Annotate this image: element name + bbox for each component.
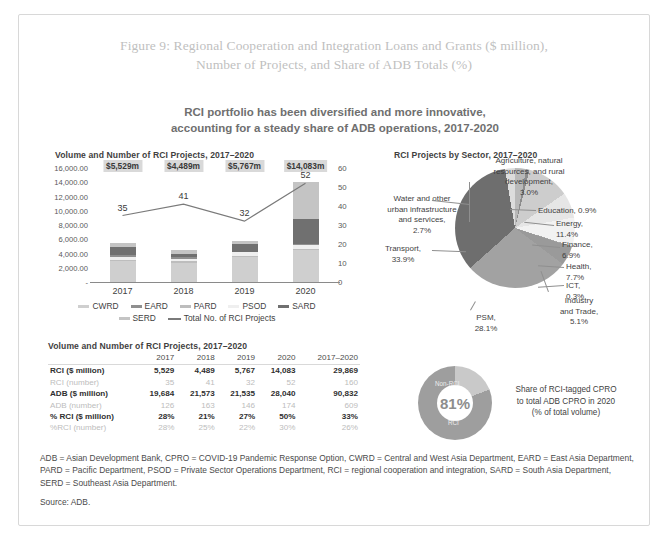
- table-cell: 5,767: [217, 365, 257, 377]
- legend-row-1: CWRDEARDPARDPSODSARD: [32, 300, 362, 312]
- donut-caption-line3: (% of total volume): [500, 407, 632, 419]
- legend-label: EARD: [145, 301, 168, 311]
- figure-title-line1: Figure 9: Regional Cooperation and Integ…: [40, 36, 628, 55]
- pie-label-line: and Trade,: [548, 307, 610, 318]
- donut-caption-line1: Share of RCI-tagged CPRO: [500, 384, 632, 396]
- legend-swatch: [228, 305, 239, 308]
- legend-item-total-no-of-rci-projects[interactable]: Total No. of RCI Projects: [168, 312, 276, 324]
- pie-label-line: 5.1%: [548, 317, 610, 328]
- table-cell: 14,083: [257, 365, 297, 377]
- table-column-header: 2019: [217, 352, 257, 365]
- pie-label-line: and services,: [376, 215, 468, 226]
- table-cell: 21,535: [217, 388, 257, 399]
- table-row-label: RCI (number): [48, 377, 136, 388]
- pie-label-line: ICT,: [566, 281, 634, 292]
- pie-slice-label-agriculture-natural-resource: Agriculture, naturalresources, and rural…: [470, 156, 588, 198]
- y-tick-label: 12,000.00: [54, 192, 88, 201]
- table-column-header: [48, 352, 136, 365]
- projects-count-label: 52: [300, 170, 310, 180]
- pie-label-line: 33.9%: [374, 255, 432, 266]
- table-cell: 19,684: [136, 388, 176, 399]
- figure-subtitle: RCI portfolio has been diversified and m…: [90, 104, 580, 136]
- y2-tick-label: 10: [338, 259, 347, 268]
- table-cell: 52: [257, 377, 297, 388]
- pie-label-line: 28.1%: [456, 324, 516, 335]
- table-row: %RCI (number)28%25%22%30%26%: [48, 422, 360, 433]
- total-projects-line: [92, 160, 336, 290]
- legend-swatch: [131, 305, 142, 308]
- table-cell: 22%: [217, 422, 257, 433]
- table-cell: 90,832: [298, 388, 361, 399]
- legend-item-serd[interactable]: SERD: [119, 312, 156, 324]
- pie-label-line: Education, 0.9%: [538, 206, 634, 217]
- pie-slice-label-education: Education, 0.9%: [538, 206, 634, 217]
- pie-slice-label-energy: Energy,11.4%: [556, 219, 634, 240]
- y-tick-label: 6,000.00: [58, 235, 88, 244]
- table-cell: 163: [176, 399, 216, 410]
- legend-label: SARD: [292, 301, 315, 311]
- table-cell: 28,040: [257, 388, 297, 399]
- pie-slice-label-water-and-other-urban-infras: Water and otherurban infrastructureand s…: [376, 194, 468, 236]
- legend-swatch: [168, 318, 181, 320]
- legend-item-sard[interactable]: SARD: [278, 300, 315, 312]
- pie-label-line: 6.9%: [562, 251, 634, 262]
- table-row: ADB (number)126163146174609: [48, 399, 360, 410]
- legend-item-eard[interactable]: EARD: [131, 300, 168, 312]
- y-tick-label: 14,000.00: [54, 178, 88, 187]
- table-row: RCI (number)35413252160: [48, 377, 360, 388]
- source-note: Source: ADB.: [40, 497, 90, 507]
- legend-label: CWRD: [92, 301, 118, 311]
- table-row-label: ADB ($ million): [48, 388, 136, 399]
- table-cell: 5,529: [136, 365, 176, 377]
- table-cell: 126: [136, 399, 176, 410]
- pie-label-line: 11.4%: [556, 230, 634, 241]
- legend-item-pard[interactable]: PARD: [180, 300, 217, 312]
- table-cell: 21,573: [176, 388, 216, 399]
- pie-label-line: 3.0%: [470, 188, 588, 199]
- y-tick-label: -: [85, 278, 88, 287]
- table-cell: 29,869: [298, 365, 361, 377]
- figure-title: Figure 9: Regional Cooperation and Integ…: [40, 36, 628, 74]
- legend-item-psod[interactable]: PSOD: [228, 300, 266, 312]
- pie-label-line: urban infrastructure: [376, 205, 468, 216]
- table-cell: 30%: [257, 422, 297, 433]
- legend-item-cwrd[interactable]: CWRD: [78, 300, 118, 312]
- subtitle-line2: accounting for a steady share of ADB ope…: [90, 120, 580, 136]
- table-cell: 28%: [136, 411, 176, 422]
- donut-center-value: 81%: [418, 366, 492, 440]
- figure-title-line2: Number of Projects, and Share of ADB Tot…: [40, 55, 628, 74]
- y2-tick-label: 30: [338, 221, 347, 230]
- legend-swatch: [119, 317, 130, 320]
- legend-label: PSOD: [242, 301, 266, 311]
- pie-label-line: Finance,: [562, 240, 634, 251]
- bar-chart-y-axis: 16,000.0014,000.0012,000.0010,000.008,00…: [32, 160, 88, 282]
- pie-label-line: Agriculture, natural: [470, 156, 588, 167]
- projects-count-label: 35: [117, 203, 127, 213]
- legend-swatch: [278, 305, 289, 308]
- table-row: ADB ($ million)19,68421,57321,53528,0409…: [48, 388, 360, 399]
- table-cell: 174: [257, 399, 297, 410]
- legend-label: Total No. of RCI Projects: [184, 313, 276, 323]
- pie-slice-label-health: Health,7.7%: [566, 262, 634, 283]
- pie-label-line: Health,: [566, 262, 634, 273]
- table-cell: 33%: [298, 411, 361, 422]
- table-cell: 609: [298, 399, 361, 410]
- projects-count-label: 41: [178, 191, 188, 201]
- table-header-row: 20172018201920202017–2020: [48, 352, 360, 365]
- pie-label-line: resources, and rural: [470, 167, 588, 178]
- table-cell: 26%: [298, 422, 361, 433]
- table-row-label: RCI ($ million): [48, 365, 136, 377]
- table-cell: 35: [136, 377, 176, 388]
- legend-swatch: [78, 305, 89, 308]
- y-tick-label: 4,000.00: [58, 249, 88, 258]
- table-cell: 25%: [176, 422, 216, 433]
- pie-slice-label-psm: PSM,28.1%: [456, 313, 516, 334]
- bar-chart-secondary-y-axis: 6050403020100: [338, 160, 362, 282]
- y2-tick-label: 20: [338, 240, 347, 249]
- bar-chart: 16,000.0014,000.0012,000.0010,000.008,00…: [32, 160, 362, 295]
- legend-swatch: [180, 305, 191, 308]
- pie-slice-label-finance: Finance,6.9%: [562, 240, 634, 261]
- projects-count-label: 32: [239, 208, 249, 218]
- table-cell: 27%: [217, 411, 257, 422]
- donut-chart: 81% Non-RCI RCI: [418, 366, 492, 440]
